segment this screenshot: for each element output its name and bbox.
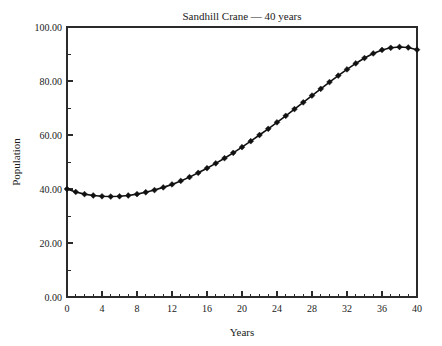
data-point-marker (73, 189, 79, 195)
data-point-marker (108, 194, 114, 200)
series-line-sandhill-crane (67, 47, 417, 197)
data-point-marker (414, 47, 420, 53)
x-axis-tick-labels: 0481216202428323640 (65, 303, 423, 314)
y-axis-tick-labels: 0.0020.0040.0060.0080.00100.00 (35, 22, 63, 303)
data-point-marker (169, 182, 175, 188)
data-point-marker (125, 193, 131, 199)
data-point-marker (64, 186, 70, 192)
data-point-marker (160, 184, 166, 190)
y-axis-label: Population (10, 138, 22, 186)
x-tick-label: 40 (412, 303, 422, 314)
data-point-marker (405, 45, 411, 51)
plot-frame (67, 27, 417, 297)
data-point-marker (134, 191, 140, 197)
x-tick-label: 16 (202, 303, 212, 314)
data-point-marker (117, 193, 123, 199)
data-point-marker (388, 45, 394, 51)
y-tick-label: 40.00 (40, 184, 63, 195)
y-tick-label: 60.00 (40, 130, 63, 141)
data-point-marker (90, 193, 96, 199)
x-tick-label: 0 (65, 303, 70, 314)
data-point-marker (143, 189, 149, 195)
y-tick-label: 80.00 (40, 76, 63, 87)
chart-title: Sandhill Crane — 40 years (182, 10, 301, 22)
data-point-marker (178, 178, 184, 184)
data-point-marker (195, 170, 201, 176)
data-point-marker (370, 51, 376, 57)
x-tick-label: 20 (237, 303, 247, 314)
x-axis-label: Years (230, 326, 255, 338)
population-line-chart: Sandhill Crane — 40 years 0.0020.0040.00… (0, 0, 442, 346)
x-tick-label: 32 (342, 303, 352, 314)
x-tick-label: 4 (100, 303, 105, 314)
data-point-marker (152, 187, 158, 193)
x-tick-label: 28 (307, 303, 317, 314)
x-tick-label: 12 (167, 303, 177, 314)
data-point-marker (187, 174, 193, 180)
data-point-marker (379, 47, 385, 53)
series-markers-sandhill-crane (64, 44, 420, 199)
data-point-marker (99, 193, 105, 199)
data-point-marker (397, 44, 403, 50)
y-tick-label: 20.00 (40, 238, 63, 249)
x-tick-label: 8 (135, 303, 140, 314)
data-point-marker (82, 191, 88, 197)
y-tick-label: 100.00 (35, 22, 63, 33)
chart-figure: Sandhill Crane — 40 years 0.0020.0040.00… (0, 0, 442, 346)
y-tick-label: 0.00 (45, 292, 63, 303)
x-tick-label: 24 (272, 303, 282, 314)
x-tick-label: 36 (377, 303, 387, 314)
